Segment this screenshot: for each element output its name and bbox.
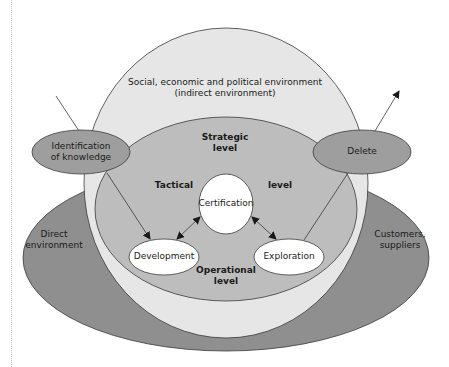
indirect-environment-label: Social, economic and political environme…	[128, 77, 322, 99]
development-label: Development	[134, 251, 195, 262]
exploration-label: Exploration	[263, 251, 314, 262]
direct-line2: environment	[25, 240, 82, 251]
suppliers-line2: suppliers	[374, 240, 425, 251]
operational-level-label: Operational level	[196, 265, 256, 287]
certification-label: Certification	[199, 198, 254, 209]
identification-line1: Identification	[51, 141, 111, 152]
customers-suppliers-label: Customers, suppliers	[374, 229, 425, 251]
customers-line1: Customers,	[374, 229, 425, 240]
strategic-line1: Strategic	[202, 132, 249, 143]
tactical-label: Tactical	[155, 180, 193, 191]
indirect-environment-line1: Social, economic and political environme…	[128, 77, 322, 88]
operational-line2: level	[196, 276, 256, 287]
strategic-line2: level	[202, 143, 249, 154]
strategic-level-label: Strategic level	[202, 132, 249, 154]
identification-label: Identification of knowledge	[51, 141, 111, 163]
identification-line2: of knowledge	[51, 152, 111, 163]
indirect-environment-line2: (indirect environment)	[128, 88, 322, 99]
outgoing-arrow	[375, 91, 399, 131]
direct-environment-label: Direct environment	[25, 229, 82, 251]
tactical-level-label: level	[268, 180, 292, 191]
incoming-line	[56, 96, 79, 131]
direct-line1: Direct	[25, 229, 82, 240]
operational-line1: Operational	[196, 265, 256, 276]
knowledge-lifecycle-diagram	[0, 0, 449, 367]
delete-label: Delete	[347, 146, 377, 157]
